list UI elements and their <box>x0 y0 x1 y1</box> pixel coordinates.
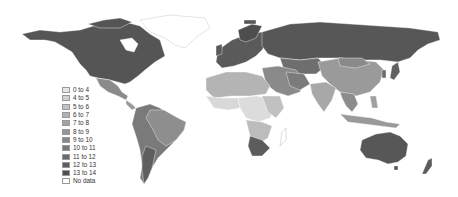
legend-item: 13 to 14 <box>62 169 132 177</box>
legend-label: 0 to 4 <box>73 86 89 94</box>
legend-item: 11 to 12 <box>62 152 132 160</box>
legend-swatch <box>62 95 70 101</box>
legend-swatch <box>62 120 70 126</box>
region-korea <box>382 70 386 78</box>
legend-swatch <box>62 178 70 184</box>
region-north-america <box>22 22 165 84</box>
legend-item: 4 to 5 <box>62 94 132 102</box>
legend-label: 10 to 11 <box>73 144 96 152</box>
legend-label: 7 to 8 <box>73 119 89 127</box>
legend: 0 to 4 4 to 5 5 to 6 6 to 7 7 to 8 8 to … <box>62 86 132 186</box>
legend-swatch <box>62 162 70 168</box>
legend-item: 7 to 8 <box>62 119 132 127</box>
legend-label: 4 to 5 <box>73 94 89 102</box>
legend-swatch <box>62 104 70 110</box>
legend-item: 0 to 4 <box>62 86 132 94</box>
legend-label: 6 to 7 <box>73 111 89 119</box>
legend-label: No data <box>73 177 95 185</box>
legend-swatch <box>62 170 70 176</box>
region-russia <box>262 22 440 62</box>
region-indonesia <box>340 114 400 128</box>
legend-swatch <box>62 129 70 135</box>
legend-label: 12 to 13 <box>73 161 96 169</box>
legend-item: 10 to 11 <box>62 144 132 152</box>
region-new-zealand <box>422 158 432 174</box>
legend-label: 9 to 10 <box>73 136 93 144</box>
legend-label: 13 to 14 <box>73 169 96 177</box>
legend-item: No data <box>62 177 132 185</box>
region-japan <box>390 62 400 80</box>
region-tasmania <box>394 166 398 170</box>
region-west-africa <box>206 96 240 110</box>
legend-swatch <box>62 87 70 93</box>
legend-swatch <box>62 112 70 118</box>
legend-item: 6 to 7 <box>62 111 132 119</box>
legend-item: 12 to 13 <box>62 161 132 169</box>
legend-swatch <box>62 137 70 143</box>
region-madagascar <box>280 128 286 146</box>
region-australia <box>360 132 408 164</box>
region-svalbard <box>244 20 256 24</box>
region-uk <box>216 44 222 56</box>
region-philippines <box>370 96 378 108</box>
legend-label: 8 to 9 <box>73 128 89 136</box>
legend-item: 8 to 9 <box>62 127 132 135</box>
legend-label: 5 to 6 <box>73 103 89 111</box>
legend-label: 11 to 12 <box>73 153 96 161</box>
legend-item: 5 to 6 <box>62 103 132 111</box>
legend-swatch <box>62 145 70 151</box>
legend-swatch <box>62 154 70 160</box>
region-north-africa <box>206 72 270 98</box>
legend-item: 9 to 10 <box>62 136 132 144</box>
region-india <box>310 82 336 112</box>
